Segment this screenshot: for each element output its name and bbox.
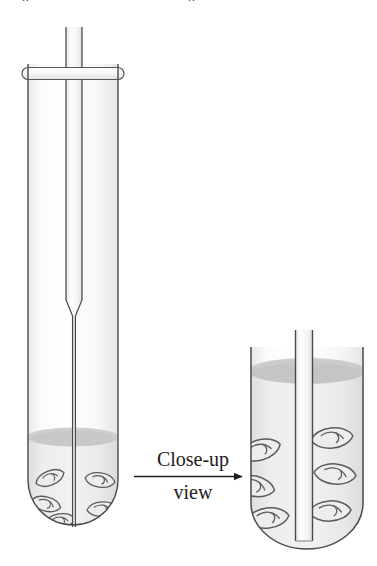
caption-line-1: Close-up [157,448,229,471]
capillary-tube-closeup [295,330,313,541]
right-apparatus-group [231,330,366,552]
left-apparatus-group [22,27,124,530]
top-text-fragment-right: p [188,0,195,1]
apparatus-diagram: Close-up view [0,0,377,566]
figure-root: p p [0,0,377,566]
collar-body [22,68,124,80]
caption-group: Close-up view [134,448,242,503]
caption-line-2: view [174,481,213,503]
top-text-fragment-left: p [22,0,29,1]
rubber-stopper-collar [22,68,124,80]
capillary-tube-closeup-fill [295,330,313,541]
